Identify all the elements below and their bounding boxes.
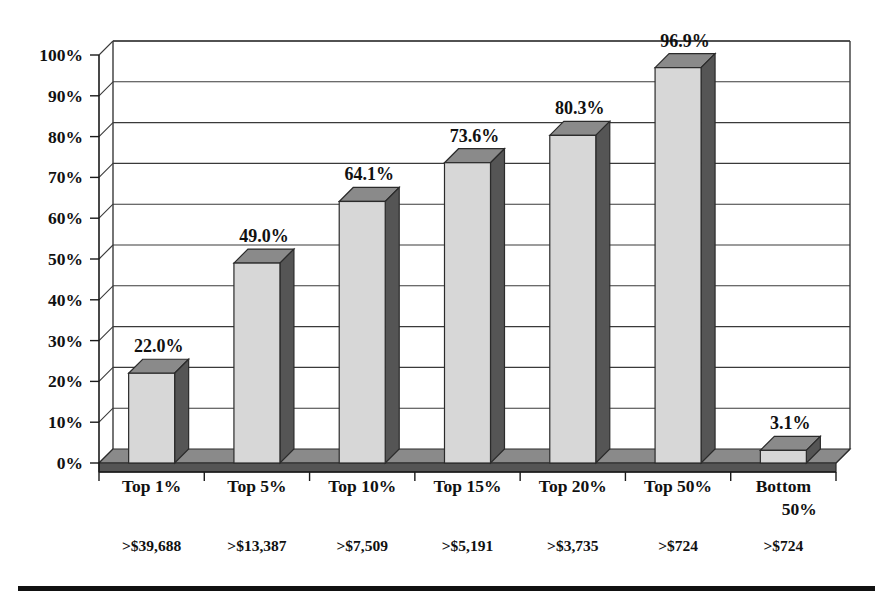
- bar-front-face: [445, 163, 491, 463]
- x-axis-category-label: Top 5%: [227, 476, 286, 496]
- bar-value-label: 96.9%: [660, 31, 710, 51]
- x-axis-sublabel: >$39,688: [122, 537, 181, 554]
- gridline-depth-connector: [99, 82, 113, 96]
- y-axis-tick-labels: 0%10%20%30%40%50%60%70%80%90%100%: [39, 45, 83, 473]
- bar-group: [655, 54, 715, 463]
- y-axis-tick-label: 20%: [48, 371, 83, 391]
- y-axis-tick-label: 80%: [48, 127, 83, 147]
- y-axis-tick-label: 0%: [57, 453, 83, 473]
- y-axis-tick-label: 30%: [48, 331, 83, 351]
- gridline-depth-connector: [99, 123, 113, 137]
- gridline-depth-connector: [99, 163, 113, 177]
- bar-front-face: [339, 201, 385, 463]
- bar-value-label: 80.3%: [555, 98, 605, 118]
- x-axis-category-label: Bottom: [756, 476, 812, 496]
- bars: [129, 54, 821, 463]
- bar-value-label: 22.0%: [134, 336, 184, 356]
- bar-side-face: [701, 54, 715, 463]
- bar-group: [550, 121, 610, 463]
- x-axis-sublabels: >$39,688>$13,387>$7,509>$5,191>$3,735>$7…: [122, 537, 803, 554]
- y-axis-tick-label: 60%: [48, 208, 83, 228]
- x-axis-category-label: Top 15%: [434, 476, 502, 496]
- gridline-depth-connector: [99, 327, 113, 341]
- x-axis-sublabel: >$724: [763, 537, 803, 554]
- gridline-depth-connector: [99, 408, 113, 422]
- bar-front-face: [760, 450, 806, 463]
- bar-front-face: [234, 263, 280, 463]
- y-axis-tick-label: 50%: [48, 249, 83, 269]
- x-axis-sublabel: >$5,191: [442, 537, 493, 554]
- bar-chart: 0%10%20%30%40%50%60%70%80%90%100% 22.0%4…: [0, 0, 893, 606]
- gridline-depth-connector: [99, 286, 113, 300]
- bar-front-face: [550, 135, 596, 463]
- bar-group: [339, 187, 399, 463]
- gridline-depth-connector: [99, 367, 113, 381]
- bar-side-face: [280, 249, 294, 463]
- gridline-depth-connector: [99, 245, 113, 259]
- x-axis-sublabel: >$7,509: [336, 537, 388, 554]
- x-axis-category-label: Top 10%: [328, 476, 396, 496]
- x-axis-category-label: Top 20%: [539, 476, 607, 496]
- x-axis-sublabel: >$13,387: [227, 537, 286, 554]
- y-axis-tick-label: 70%: [48, 167, 83, 187]
- bar-value-label: 64.1%: [344, 164, 394, 184]
- y-axis-tick-label: 40%: [48, 290, 83, 310]
- bottom-divider-rule: [18, 586, 875, 591]
- x-axis-sublabel: >$724: [658, 537, 698, 554]
- y-axis-tick-label: 90%: [48, 86, 83, 106]
- bar-side-face: [491, 149, 505, 463]
- gridline-depth-connector: [99, 41, 113, 55]
- chart-container: 0%10%20%30%40%50%60%70%80%90%100% 22.0%4…: [0, 0, 893, 606]
- x-axis-category-label: Top 1%: [122, 476, 181, 496]
- bar-group: [234, 249, 294, 463]
- bar-side-face: [385, 187, 399, 463]
- bar-side-face: [596, 121, 610, 463]
- bar-side-face: [175, 359, 189, 463]
- floor-front-face: [99, 463, 836, 472]
- y-axis-tick-label: 100%: [39, 45, 83, 65]
- bar-front-face: [655, 68, 701, 463]
- bar-front-face: [129, 373, 175, 463]
- bar-value-label: 73.6%: [450, 126, 500, 146]
- x-axis-category-label: 50%: [782, 499, 817, 519]
- y-axis-tick-label: 10%: [48, 412, 83, 432]
- x-axis-category-label: Top 50%: [644, 476, 712, 496]
- bar-value-label: 3.1%: [770, 413, 811, 433]
- gridline-depth-connector: [99, 204, 113, 218]
- x-axis-category-labels: Top 1%Top 5%Top 10%Top 15%Top 20%Top 50%…: [122, 476, 817, 519]
- x-axis-sublabel: >$3,735: [547, 537, 599, 554]
- bar-value-label: 49.0%: [239, 226, 289, 246]
- bar-group: [129, 359, 189, 463]
- bar-group: [445, 149, 505, 463]
